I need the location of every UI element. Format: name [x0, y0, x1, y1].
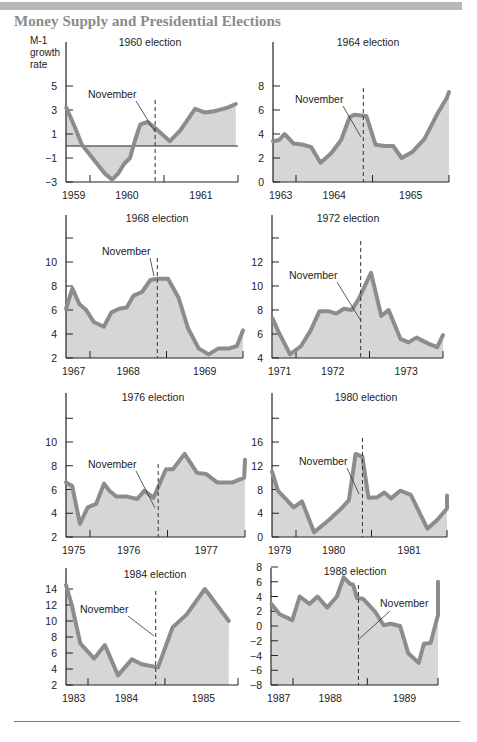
- y-tick-label: 2: [51, 679, 57, 691]
- y-tick-label: 4: [258, 128, 264, 140]
- bottom-divider: [14, 721, 460, 722]
- x-year-label: 1965: [399, 189, 423, 201]
- x-year-label: 1983: [62, 692, 86, 704]
- x-year-label: 1975: [62, 544, 86, 556]
- y-tick-label: 4: [256, 591, 262, 603]
- y-tick-label: 0: [257, 531, 263, 543]
- november-label: November: [295, 93, 344, 105]
- x-year-label: 1980: [322, 544, 346, 556]
- y-tick-label: 16: [251, 436, 263, 448]
- y-tick-label: 2: [51, 352, 57, 364]
- chart-panel-1976: 108642197519761977November1976 election: [45, 391, 245, 556]
- x-year-label: 1972: [321, 365, 345, 377]
- chart-panel-1968: 108642196719681969November1968 election: [45, 212, 243, 377]
- y-tick-label: 14: [45, 583, 57, 595]
- y-tick-label: −2: [250, 635, 262, 647]
- x-year-label: 1967: [62, 365, 86, 377]
- y-tick-label: 8: [258, 80, 264, 92]
- y-tick-label: −4: [250, 650, 262, 662]
- y-tick-label: 2: [256, 605, 262, 617]
- y-tick-label: 6: [256, 576, 262, 588]
- x-year-label: 1981: [398, 544, 422, 556]
- x-year-label: 1977: [195, 544, 219, 556]
- y-tick-label: 8: [51, 631, 57, 643]
- y-tick-label: −8: [250, 679, 262, 691]
- chart-title: 1984 election: [124, 568, 187, 580]
- area-fill: [66, 585, 229, 685]
- y-tick-label: 4: [51, 663, 57, 675]
- chart-title: 1980 election: [335, 391, 398, 403]
- chart-title: 1964 election: [337, 36, 400, 48]
- x-year-label: 1976: [117, 544, 141, 556]
- x-year-label: 1984: [115, 692, 139, 704]
- y-tick-label: 4: [257, 507, 263, 519]
- x-year-label: 1960: [115, 189, 139, 201]
- x-year-label: 1987: [267, 692, 291, 704]
- y-tick-label: 6: [51, 484, 57, 496]
- y-tick-label: 5: [51, 80, 57, 92]
- area-fill: [66, 104, 236, 180]
- y-tick-label: 10: [251, 280, 263, 292]
- y-tick-label: 4: [257, 352, 263, 364]
- y-tick-label: 8: [256, 561, 262, 573]
- y-tick-label: 6: [258, 104, 264, 116]
- chart-panel-1988: 86420−2−4−6−8198719881989November1988 el…: [250, 561, 438, 704]
- november-leader: [128, 616, 154, 636]
- y-tick-label: −6: [250, 664, 262, 676]
- chart-panel-1960: 531−1−3195919601961November1960 election: [45, 36, 238, 201]
- y-tick-label: 2: [258, 152, 264, 164]
- y-tick-label: 4: [51, 507, 57, 519]
- x-year-label: 1969: [193, 365, 217, 377]
- y-tick-label: 8: [257, 484, 263, 496]
- y-tick-label: 10: [45, 436, 57, 448]
- y-tick-label: 2: [51, 531, 57, 543]
- x-year-label: 1959: [62, 189, 86, 201]
- november-label: November: [380, 597, 429, 609]
- y-tick-label: 8: [257, 304, 263, 316]
- x-year-label: 1979: [268, 544, 292, 556]
- chart-title: 1988 election: [324, 565, 387, 577]
- chart-panel-1984: 1412108642198319841985November1984 elect…: [45, 568, 238, 704]
- november-label: November: [289, 269, 338, 281]
- y-tick-label: 6: [51, 647, 57, 659]
- chart-panel-1964: 86420196319641965November1964 election: [258, 36, 449, 201]
- chart-panel-1972: 1210864197119721973November1972 election: [251, 212, 443, 377]
- chart-grid: 531−1−3195919601961November1960 election…: [0, 0, 477, 742]
- november-label: November: [299, 455, 348, 467]
- y-tick-label: 6: [51, 304, 57, 316]
- y-tick-label: −3: [45, 176, 57, 188]
- chart-title: 1968 election: [126, 212, 189, 224]
- november-label: November: [88, 88, 137, 100]
- november-leader: [150, 258, 154, 276]
- y-tick-label: 1: [51, 128, 57, 140]
- y-tick-label: 0: [256, 620, 262, 632]
- x-year-label: 1973: [395, 365, 419, 377]
- y-tick-label: 10: [45, 615, 57, 627]
- x-year-label: 1989: [393, 692, 417, 704]
- y-tick-label: 4: [51, 328, 57, 340]
- chart-title: 1960 election: [119, 36, 182, 48]
- x-year-label: 1968: [117, 365, 141, 377]
- x-year-label: 1963: [269, 189, 293, 201]
- x-year-label: 1988: [318, 692, 342, 704]
- y-tick-label: 8: [51, 280, 57, 292]
- november-label: November: [80, 603, 129, 615]
- chart-title: 1976 election: [122, 391, 185, 403]
- chart-panel-1980: 1612840197919801981November1980 election: [251, 391, 447, 556]
- november-label: November: [102, 245, 151, 257]
- y-tick-label: 3: [51, 104, 57, 116]
- chart-title: 1972 election: [317, 212, 380, 224]
- y-tick-label: 6: [257, 328, 263, 340]
- x-year-label: 1964: [323, 189, 347, 201]
- november-label: November: [88, 458, 137, 470]
- y-tick-label: 12: [45, 599, 57, 611]
- x-year-label: 1961: [189, 189, 213, 201]
- y-tick-label: 0: [258, 176, 264, 188]
- y-tick-label: 10: [45, 256, 57, 268]
- y-tick-label: 12: [251, 256, 263, 268]
- y-tick-label: 8: [51, 460, 57, 472]
- x-year-label: 1971: [268, 365, 292, 377]
- x-year-label: 1985: [192, 692, 216, 704]
- y-tick-label: 12: [251, 460, 263, 472]
- y-tick-label: −1: [45, 152, 57, 164]
